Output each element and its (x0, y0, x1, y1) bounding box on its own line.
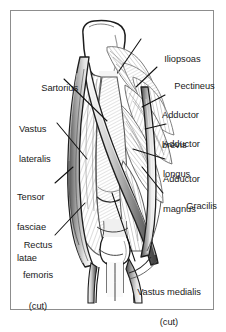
label-adductor-magnus-line1: Adductor (163, 174, 200, 184)
label-layer: Iliopsoas Pectineus Adductor brevis Addu… (11, 11, 215, 311)
label-rectus-femoris-line2: femoris (15, 270, 61, 280)
label-vastus-medialis: Vastus medialis (cut) (129, 266, 209, 332)
label-tensor-fasciae-latae-line1: Tensor (17, 192, 46, 202)
label-gracilis-text: Gracilis (186, 201, 217, 211)
figure-frame: Iliopsoas Pectineus Adductor brevis Addu… (10, 10, 214, 310)
label-iliopsoas-text: Iliopsoas (164, 54, 200, 64)
label-vastus-lateralis-line2: lateralis (19, 154, 51, 164)
label-sartorius-text: Sartorius (41, 83, 78, 93)
label-adductor-longus-line1: Adductor (163, 139, 200, 149)
label-vastus-lateralis-line1: Vastus (19, 124, 51, 134)
label-vastus-medialis-line2: (cut) (129, 317, 209, 327)
label-sartorius: Sartorius (21, 73, 78, 104)
label-rectus-femoris: Rectus femoris (cut) (15, 219, 61, 332)
label-rectus-femoris-line1: Rectus (15, 240, 61, 250)
label-gracilis: Gracilis (166, 191, 217, 222)
label-rectus-femoris-line3: (cut) (15, 301, 61, 311)
label-vastus-medialis-line1: Vastus medialis (129, 287, 209, 297)
figure-root: Iliopsoas Pectineus Adductor brevis Addu… (0, 0, 226, 332)
